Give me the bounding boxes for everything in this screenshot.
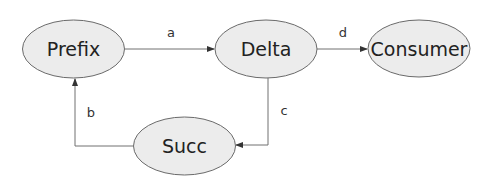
edge-c: c	[236, 78, 288, 145]
diagram-canvas: a d c b Prefix Delta Consumer Succ	[0, 0, 491, 177]
edge-d: d	[317, 25, 367, 49]
node-prefix-label: Prefix	[47, 38, 100, 60]
node-succ[interactable]: Succ	[134, 117, 236, 175]
edge-a-label: a	[167, 25, 175, 40]
edge-c-line	[236, 78, 268, 145]
node-consumer-label: Consumer	[371, 38, 468, 60]
node-prefix[interactable]: Prefix	[23, 20, 125, 78]
edge-b-line	[75, 79, 133, 146]
edge-c-label: c	[280, 103, 287, 118]
node-succ-label: Succ	[162, 135, 207, 157]
node-consumer[interactable]: Consumer	[368, 20, 470, 77]
edge-b-label: b	[87, 105, 95, 120]
edge-a: a	[125, 25, 214, 49]
edge-d-label: d	[339, 25, 347, 40]
edge-b: b	[75, 79, 133, 146]
node-delta[interactable]: Delta	[215, 20, 317, 78]
node-delta-label: Delta	[241, 38, 292, 60]
